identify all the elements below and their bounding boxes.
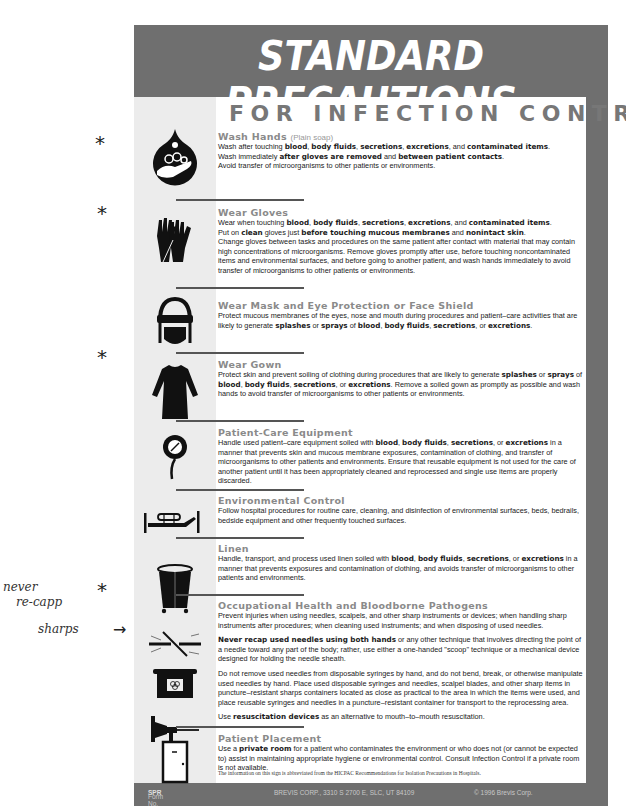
section-paragraph: Handle, transport, and process used line… [218, 554, 584, 583]
handwritten-note-never: never [3, 580, 37, 594]
section-divider [176, 199, 304, 201]
section-wash-hands: Wash Hands (Plain soap) Wash after touch… [218, 131, 584, 176]
section-paragraph: Prevent injuries when using needles, sca… [218, 611, 584, 630]
poster-sheet: FOR INFECTION CONTROL [134, 97, 586, 783]
section-title: Wear Mask and Eye Protection or Face Shi… [218, 300, 584, 311]
section-divider [176, 594, 304, 596]
section-paragraph: Use resuscitation devices as an alternat… [218, 712, 584, 722]
section-divider [176, 537, 304, 539]
section-paragraph: Wear when touching blood, body fluids, s… [218, 218, 584, 276]
section-patient-care-equipment: Patient-Care Equipment Handle used patie… [218, 427, 584, 491]
section-title-note: (Plain soap) [290, 133, 333, 142]
section-mask-eye-protection: Wear Mask and Eye Protection or Face Shi… [218, 300, 584, 335]
source-disclaimer: The information on this sign is abbrevia… [218, 770, 481, 776]
section-paragraph: Wash after touching blood, body fluids, … [218, 142, 584, 171]
gown-icon [134, 359, 216, 424]
gloves-icon [134, 207, 216, 272]
sharps-container-icon [134, 663, 216, 703]
publisher-address: BREVIS CORP., 3310 S 2700 E, SLC, UT 841… [274, 789, 414, 796]
section-body: Protect mucous membranes of the eyes, no… [218, 311, 584, 330]
section-body: Protect skin and prevent soiling of clot… [218, 370, 584, 399]
bed-icon [134, 497, 216, 547]
section-body: Wash after touching blood, body fluids, … [218, 142, 584, 171]
section-divider [176, 420, 304, 422]
section-title: Patient Placement [218, 733, 584, 744]
handwritten-star-gloves: * [97, 201, 107, 225]
section-title: Environmental Control [218, 495, 584, 506]
section-title: Wear Gown [218, 359, 584, 370]
handwritten-star-gown: * [97, 345, 107, 369]
section-title: Occupational Health and Bloodborne Patho… [218, 600, 584, 611]
section-wear-gloves: Wear Gloves Wear when touching blood, bo… [218, 207, 584, 281]
handwritten-arrow-icon: → [113, 620, 126, 639]
section-paragraph: Do not remove used needles from disposab… [218, 669, 584, 707]
section-body: Prevent injuries when using needles, sca… [218, 611, 584, 722]
standard-precautions-poster: STANDARD PRECAUTIONS FOR INFECTION CONTR… [134, 25, 608, 806]
copyright: © 1996 Brevis Corp. [474, 789, 533, 796]
section-paragraph: Follow hospital procedures for routine c… [218, 506, 584, 525]
section-title: Linen [218, 543, 584, 554]
section-body: Handle used patient–care equipment soile… [218, 438, 584, 486]
handwritten-note-sharps: sharps [38, 622, 79, 636]
wash-hands-icon [134, 127, 216, 192]
section-environmental-control: Environmental Control Follow hospital pr… [218, 495, 584, 530]
section-title: Patient-Care Equipment [218, 427, 584, 438]
section-wear-gown: Wear Gown Protect skin and prevent soili… [218, 359, 584, 404]
needle-recap-prohibited-icon [134, 627, 216, 661]
poster-subtitle: FOR INFECTION CONTROL [229, 101, 584, 126]
section-body: Use a private room for a patient who con… [218, 744, 584, 773]
form-number: Form No. SPR [148, 789, 161, 796]
section-paragraph: Never recap used needles using both hand… [218, 635, 584, 664]
section-body: Follow hospital procedures for routine c… [218, 506, 584, 525]
section-title: Wash Hands [218, 131, 287, 142]
mask-eye-protection-icon [134, 293, 216, 353]
section-paragraph: Protect skin and prevent soiling of clot… [218, 370, 584, 399]
section-body: Handle, transport, and process used line… [218, 554, 584, 583]
section-linen: Linen Handle, transport, and process use… [218, 543, 584, 588]
section-divider [176, 352, 304, 354]
section-paragraph: Handle used patient–care equipment soile… [218, 438, 584, 486]
door-icon [134, 737, 216, 787]
handwritten-star-wash-hands: * [95, 131, 105, 155]
section-body: Wear when touching blood, body fluids, s… [218, 218, 584, 276]
section-paragraph: Protect mucous membranes of the eyes, no… [218, 311, 584, 330]
patient-care-equipment-icon [134, 427, 216, 487]
handwritten-note-recap: re-capp [16, 595, 62, 609]
section-title: Wear Gloves [218, 207, 584, 218]
linen-hamper-icon [134, 559, 216, 619]
poster-footer: Form No. SPR BREVIS CORP., 3310 S 2700 E… [134, 785, 586, 803]
section-occupational-health: Occupational Health and Bloodborne Patho… [218, 600, 584, 727]
section-paragraph: Use a private room for a patient who con… [218, 744, 584, 773]
section-divider [176, 287, 304, 289]
handwritten-star-needles: * [97, 578, 107, 602]
